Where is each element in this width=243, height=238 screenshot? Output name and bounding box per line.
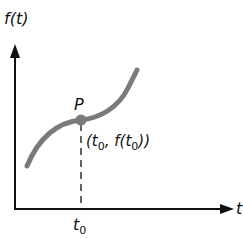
y-axis-arrow-icon	[10, 44, 20, 58]
x-axis-label: t	[236, 199, 243, 218]
point-label: P	[74, 95, 84, 114]
t0-tick-label: t0	[73, 215, 86, 237]
point-p	[76, 115, 87, 126]
x-axis-arrow-icon	[220, 204, 234, 214]
y-axis-label: f(t)	[4, 9, 28, 28]
point-coordinate-label: (t0, f(t0))	[86, 132, 150, 153]
function-diagram: f(t) t P (t0, f(t0)) t0	[0, 0, 243, 238]
